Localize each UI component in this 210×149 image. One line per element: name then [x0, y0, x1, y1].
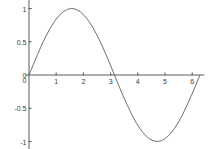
x-tick-label: 1 — [54, 78, 58, 85]
y-tick-label: -0.5 — [14, 105, 26, 112]
y-tick-label: 1 — [23, 5, 27, 12]
x-tick-label: 4 — [136, 78, 140, 85]
x-tick-label: 2 — [81, 78, 85, 85]
sine-plot-figure: 012345610.50-0.5-1 — [0, 0, 210, 149]
x-tick-label: 5 — [163, 78, 167, 85]
plot-canvas — [0, 0, 210, 149]
x-tick-label: 6 — [190, 78, 194, 85]
x-tick-label: 3 — [109, 78, 113, 85]
y-tick-label: -1 — [20, 138, 26, 145]
y-tick-label: 0 — [23, 72, 27, 79]
plot-background — [0, 0, 210, 149]
y-tick-label: 0.5 — [17, 38, 27, 45]
